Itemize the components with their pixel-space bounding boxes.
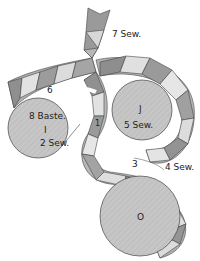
label-i-letter: I [44, 125, 47, 135]
label-j-letter: J [138, 104, 142, 114]
quilt-diagram: 7 Sew. 6 1 8 Baste. I 2 Sew. J 5 Sew. 3 … [0, 0, 200, 261]
diagram-canvas: 7 Sew. 6 1 8 Baste. I 2 Sew. J 5 Sew. 3 … [0, 0, 200, 261]
circle-i [8, 98, 68, 158]
label-i-note-2: 2 Sew. [40, 138, 69, 148]
label-o-letter: O [137, 212, 144, 222]
label-step-7: 7 Sew. [112, 29, 141, 39]
circle-j [112, 80, 172, 140]
left-arm-strip [8, 58, 96, 108]
label-step-4: 4 Sew. [165, 162, 194, 172]
label-i-note-1: 8 Baste. [29, 111, 66, 121]
label-step-6: 6 [47, 85, 53, 95]
label-j-note: 5 Sew. [124, 120, 153, 130]
label-step-3: 3 [132, 159, 138, 169]
label-step-1: 1 [95, 119, 100, 128]
top-stem-strip [84, 8, 110, 58]
